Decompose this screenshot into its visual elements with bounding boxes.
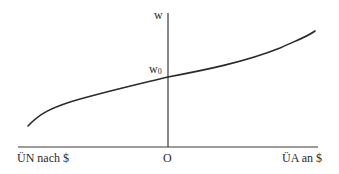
diagram-canvas xyxy=(0,0,339,174)
y-axis-label: w xyxy=(154,9,163,21)
origin-label: O xyxy=(163,152,172,164)
x-axis-right-label: ÜA an $ xyxy=(282,152,322,164)
curve xyxy=(28,31,315,126)
intercept-label: w0 xyxy=(149,63,162,78)
intercept-label-main: w xyxy=(149,62,158,76)
intercept-label-sub: 0 xyxy=(158,67,162,76)
x-axis-left-label: ÜN nach $ xyxy=(17,152,69,164)
diagram: w w0 ÜN nach $ O ÜA an $ xyxy=(0,0,339,174)
